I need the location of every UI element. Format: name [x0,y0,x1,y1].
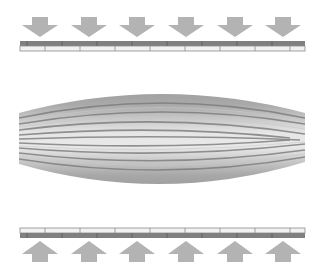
down-arrow-icon [22,17,58,37]
top-plate [20,41,305,51]
up-arrow-icon [168,241,204,262]
down-arrow-icon [168,17,204,37]
up-arrow-icon [22,241,58,262]
down-arrow-icon [217,17,253,37]
down-arrow-icon [265,17,301,37]
bottom-plate [20,228,305,238]
up-arrow-icon [119,241,155,262]
down-arrow-icon [71,17,107,37]
top-arrows [22,17,301,37]
up-arrow-icon [217,241,253,262]
fibrous-body [19,70,306,210]
down-arrow-icon [119,17,155,37]
up-arrow-icon [71,241,107,262]
up-arrow-icon [265,241,301,262]
bottom-arrows [22,241,301,262]
compression-diagram [0,0,323,276]
